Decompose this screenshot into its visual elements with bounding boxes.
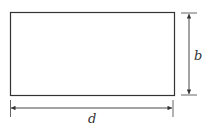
rectangle-dimension-diagram: b d bbox=[0, 0, 207, 128]
width-dimension: d bbox=[11, 100, 174, 126]
rectangle bbox=[11, 13, 175, 96]
height-label: b bbox=[194, 48, 202, 63]
height-dimension: b bbox=[181, 13, 202, 95]
width-label: d bbox=[88, 111, 96, 126]
